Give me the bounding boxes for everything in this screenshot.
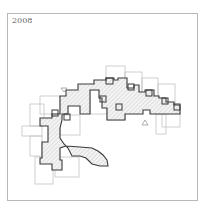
site-plan [0, 0, 207, 213]
south-marker-icon [142, 120, 148, 125]
building-footprint [40, 78, 180, 170]
